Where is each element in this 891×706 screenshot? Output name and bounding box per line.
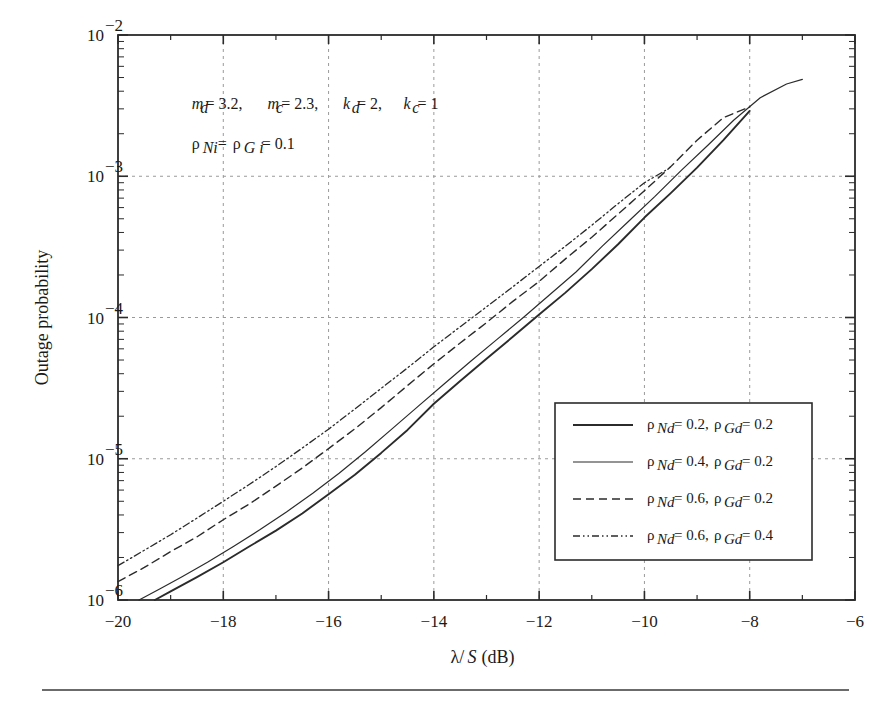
svg-text:= 3.2,: = 3.2,: [206, 95, 243, 112]
svg-text:= 2.3,: = 2.3,: [281, 95, 318, 112]
svg-text:Nd: Nd: [656, 531, 675, 547]
svg-text:= 1: = 1: [417, 95, 438, 112]
legend-label: ρ: [647, 416, 655, 432]
y-axis-title: Outage probability: [32, 250, 52, 385]
svg-text:10: 10: [87, 309, 104, 328]
svg-text:k: k: [404, 95, 412, 112]
xtick-label: −12: [526, 612, 553, 631]
svg-text:Gd: Gd: [724, 494, 743, 510]
svg-text:ρ: ρ: [714, 416, 722, 432]
xtick-label: −14: [421, 612, 448, 631]
svg-text:ρ: ρ: [714, 453, 722, 469]
xtick-label: −16: [315, 612, 342, 631]
svg-text:ρ: ρ: [233, 135, 241, 153]
svg-text:−6: −6: [105, 581, 123, 600]
x-axis-title: λ/S (dB): [451, 647, 515, 668]
svg-text:10: 10: [87, 591, 104, 610]
svg-text:(dB): (dB): [482, 647, 515, 668]
svg-text:Nd: Nd: [656, 420, 675, 436]
svg-text:Nd: Nd: [656, 457, 675, 473]
svg-text:G i: G i: [244, 139, 264, 156]
figure-container: −20−18−16−14−12−10−8−610−610−510−410−310…: [0, 0, 891, 706]
legend-label: ρ: [647, 453, 655, 469]
xtick-label: −20: [105, 612, 132, 631]
svg-text:λ/: λ/: [451, 647, 465, 667]
svg-text:= 2,: = 2,: [357, 95, 382, 112]
svg-text:= 0.6,: = 0.6,: [674, 527, 709, 543]
chart-legend: ρNd= 0.2,ρGd= 0.2ρNd= 0.4,ρGd= 0.2ρNd= 0…: [555, 403, 812, 560]
svg-text:−5: −5: [105, 440, 123, 459]
svg-text:S: S: [468, 647, 477, 667]
svg-text:Ni: Ni: [202, 139, 218, 156]
svg-text:Gd: Gd: [724, 457, 743, 473]
svg-text:−3: −3: [105, 157, 123, 176]
outage-probability-chart: −20−18−16−14−12−10−8−610−610−510−410−310…: [0, 0, 891, 706]
svg-text:ρ: ρ: [192, 135, 200, 153]
svg-text:= 0.2: = 0.2: [742, 416, 773, 432]
svg-text:Nd: Nd: [656, 494, 675, 510]
svg-text:Gd: Gd: [724, 531, 743, 547]
xtick-label: −18: [210, 612, 237, 631]
svg-text:= 0.2: = 0.2: [742, 490, 773, 506]
xtick-label: −6: [846, 612, 864, 631]
svg-text:= 0.2,: = 0.2,: [674, 416, 709, 432]
legend-label: ρ: [647, 527, 655, 543]
svg-text:=: =: [218, 135, 227, 152]
svg-text:ρ: ρ: [714, 490, 722, 506]
legend-label: ρ: [647, 490, 655, 506]
svg-text:10: 10: [87, 167, 104, 186]
svg-text:10: 10: [87, 450, 104, 469]
svg-text:−2: −2: [105, 16, 123, 35]
svg-text:Outage probability: Outage probability: [32, 250, 52, 385]
svg-text:= 0.6,: = 0.6,: [674, 490, 709, 506]
svg-text:= 0.4: = 0.4: [742, 527, 773, 543]
svg-text:Gd: Gd: [724, 420, 743, 436]
svg-text:10: 10: [87, 26, 104, 45]
svg-text:= 0.1: = 0.1: [262, 135, 295, 152]
svg-text:ρ: ρ: [714, 527, 722, 543]
svg-text:= 0.4,: = 0.4,: [674, 453, 709, 469]
svg-text:k: k: [343, 95, 351, 112]
svg-text:= 0.2: = 0.2: [742, 453, 773, 469]
svg-text:−4: −4: [105, 299, 124, 318]
xtick-label: −10: [631, 612, 658, 631]
xtick-label: −8: [741, 612, 759, 631]
